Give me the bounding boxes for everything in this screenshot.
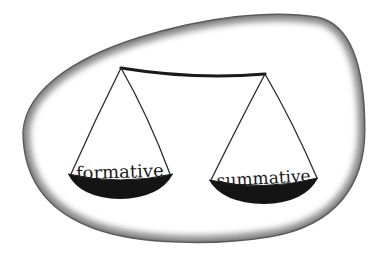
balance-scale-illustration: formative summative: [0, 0, 381, 255]
left-pan-label: formative: [76, 159, 164, 183]
blob-frame: [24, 15, 364, 242]
